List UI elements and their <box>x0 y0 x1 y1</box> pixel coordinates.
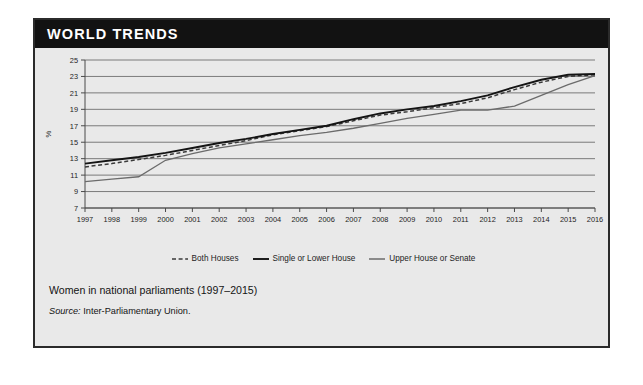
banner-title: WORLD TRENDS <box>47 26 179 42</box>
x-tick-label: 2004 <box>265 215 281 224</box>
banner: WORLD TRENDS <box>35 20 608 48</box>
y-tick-label: 19 <box>70 105 78 114</box>
series-line-upper-house-or-senate <box>85 76 595 182</box>
x-tick-label: 2002 <box>211 215 227 224</box>
x-tick-label: 2016 <box>587 215 603 224</box>
y-tick-label: 25 <box>70 56 78 65</box>
y-tick-label: 7 <box>74 204 78 213</box>
x-tick-label: 2000 <box>157 215 173 224</box>
legend-swatch-solid-gray <box>369 256 385 262</box>
x-tick-label: 1998 <box>104 215 120 224</box>
x-tick-label: 2011 <box>453 215 469 224</box>
series-line-single-or-lower-house <box>85 74 595 164</box>
world-trends-card: WORLD TRENDS 791113151719212325%19971998… <box>33 18 610 348</box>
legend-label-both-houses: Both Houses <box>192 254 239 263</box>
x-tick-label: 2009 <box>399 215 415 224</box>
x-tick-label: 2007 <box>345 215 361 224</box>
legend-item-both-houses: Both Houses <box>172 254 239 263</box>
x-tick-label: 2010 <box>426 215 442 224</box>
x-tick-label: 2006 <box>318 215 334 224</box>
line-chart: 791113151719212325%199719981999200020012… <box>35 48 612 253</box>
legend-label-single-or-lower-house: Single or Lower House <box>273 254 356 263</box>
x-tick-label: 2001 <box>184 215 200 224</box>
y-tick-label: 13 <box>70 154 78 163</box>
x-tick-label: 2015 <box>560 215 576 224</box>
caption-title: Women in national parliaments (1997–2015… <box>49 284 589 296</box>
x-tick-label: 2005 <box>292 215 308 224</box>
legend-item-single-or-lower-house: Single or Lower House <box>253 254 356 263</box>
caption-source: Source: Inter-Parliamentary Union. <box>49 306 589 316</box>
x-tick-label: 2013 <box>506 215 522 224</box>
x-tick-label: 2003 <box>238 215 254 224</box>
legend-swatch-solid-dark <box>253 256 269 262</box>
x-tick-label: 2008 <box>372 215 388 224</box>
legend-swatch-dashed <box>172 256 188 262</box>
caption-source-label: Source: <box>49 306 81 316</box>
y-tick-label: 23 <box>70 72 78 81</box>
y-axis-title: % <box>44 130 53 137</box>
caption: Women in national parliaments (1997–2015… <box>49 284 589 316</box>
y-tick-label: 9 <box>74 187 78 196</box>
chart-area: 791113151719212325%199719981999200020012… <box>35 48 612 348</box>
y-tick-label: 11 <box>70 171 78 180</box>
y-tick-label: 15 <box>70 138 78 147</box>
caption-source-value: Inter-Parliamentary Union. <box>81 306 191 316</box>
legend-label-upper-house-or-senate: Upper House or Senate <box>389 254 475 263</box>
legend-item-upper-house-or-senate: Upper House or Senate <box>369 254 475 263</box>
chart-legend: Both Houses Single or Lower House Upper … <box>35 254 612 263</box>
x-tick-label: 2012 <box>479 215 495 224</box>
y-tick-label: 21 <box>70 89 78 98</box>
y-tick-label: 17 <box>70 122 78 131</box>
x-tick-label: 1997 <box>77 215 93 224</box>
x-tick-label: 1999 <box>130 215 146 224</box>
x-tick-label: 2014 <box>533 215 549 224</box>
